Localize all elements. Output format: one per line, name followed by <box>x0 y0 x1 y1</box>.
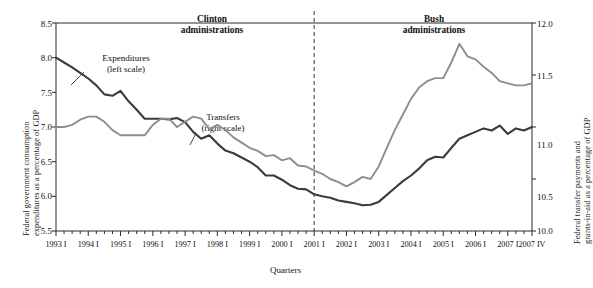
series-line-expenditures <box>56 58 532 206</box>
series-line-transfers <box>56 44 532 187</box>
x-tick-label-15: 2007 IV <box>506 240 558 249</box>
